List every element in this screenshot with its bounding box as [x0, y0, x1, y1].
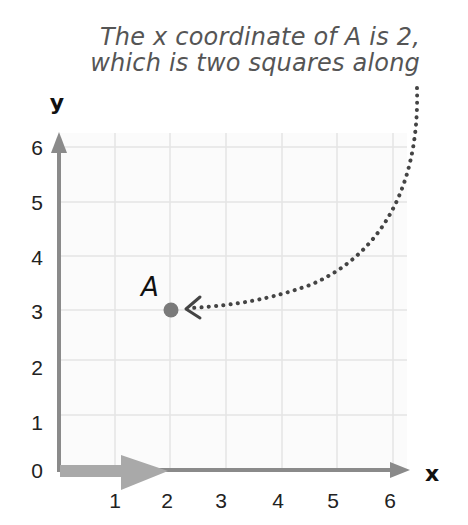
y-tick-0: 0: [31, 459, 43, 482]
y-tick-4: 4: [31, 246, 43, 269]
point-a-marker: [164, 303, 179, 318]
point-a-label: A: [139, 272, 159, 302]
x-tick-2: 2: [161, 489, 173, 512]
x-tick-4: 4: [272, 489, 284, 512]
y-tick-labels: 0 1 2 3 4 5 6: [31, 136, 43, 482]
coordinate-grid-diagram: 0 1 2 3 4 5 6 1 2 3 4 5 6 y x A: [0, 0, 468, 525]
x-tick-3: 3: [215, 489, 227, 512]
y-tick-6: 6: [31, 136, 43, 159]
grid-background: [60, 133, 407, 470]
y-tick-1: 1: [31, 411, 43, 434]
y-tick-2: 2: [31, 356, 43, 379]
x-tick-5: 5: [327, 489, 339, 512]
x-axis-label: x: [425, 461, 439, 486]
y-tick-3: 3: [31, 300, 43, 323]
x-tick-labels: 1 2 3 4 5 6: [109, 489, 396, 512]
y-axis-label: y: [50, 90, 64, 115]
y-tick-5: 5: [31, 191, 43, 214]
x-tick-1: 1: [109, 489, 121, 512]
x-tick-6: 6: [384, 489, 396, 512]
